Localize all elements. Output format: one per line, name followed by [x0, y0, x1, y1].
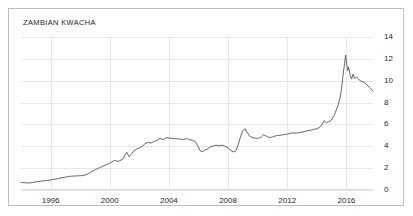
y-tick-label-2: 2	[384, 163, 388, 172]
y-tick-label-12: 12	[384, 54, 393, 63]
x-tick-label-2016: 2016	[337, 196, 355, 205]
x-tick-label-2008: 2008	[219, 196, 237, 205]
series-polyline	[21, 55, 373, 183]
y-tick-label-4: 4	[384, 141, 388, 150]
x-tick-label-1996: 1996	[42, 196, 60, 205]
y-tick-label-0: 0	[384, 185, 388, 194]
x-tick-label-2012: 2012	[278, 196, 296, 205]
y-tick-label-8: 8	[384, 98, 388, 107]
chart-card: ZAMBIAN KWACHA 02468101214 1996200020042…	[8, 8, 404, 206]
x-tick-label-2004: 2004	[160, 196, 178, 205]
y-tick-label-10: 10	[384, 76, 393, 85]
line-series-zambian-kwacha	[21, 37, 373, 190]
gridline-y-0	[21, 190, 373, 191]
plot-area	[21, 37, 373, 190]
chart-title: ZAMBIAN KWACHA	[23, 18, 96, 27]
y-tick-label-6: 6	[384, 119, 388, 128]
y-tick-label-14: 14	[384, 32, 393, 41]
x-tick-label-2000: 2000	[101, 196, 119, 205]
